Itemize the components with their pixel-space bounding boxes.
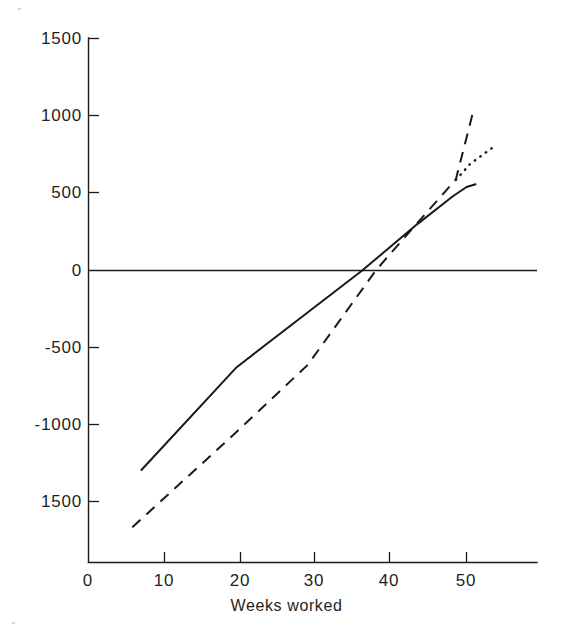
x-tick-label-30: 30 xyxy=(294,572,334,589)
y-tick-label-minus-500: -500 xyxy=(0,339,82,356)
series-dotted-line xyxy=(456,147,494,180)
x-tick-label-50: 50 xyxy=(446,572,486,589)
x-tick-label-0: 0 xyxy=(68,572,108,589)
series-dashed-line xyxy=(132,108,474,527)
y-tick-label-minus-1000: -1000 xyxy=(0,416,82,433)
x-axis-title: Weeks worked xyxy=(0,598,573,614)
y-tick-label-minus-1500: 1500 xyxy=(0,493,82,510)
y-tick-label-1500: 1500 xyxy=(0,30,82,47)
y-tick-label-500: 500 xyxy=(0,184,82,201)
chart-figure: 1500 1000 500 0 -500 -1000 1500 0 10 20 … xyxy=(0,0,573,638)
x-tick-label-10: 10 xyxy=(144,572,184,589)
x-tick-label-40: 40 xyxy=(369,572,409,589)
series-solid-line xyxy=(141,184,475,470)
y-tick-label-1000: 1000 xyxy=(0,107,82,124)
x-tick-marks xyxy=(165,552,467,563)
plot-area xyxy=(0,0,573,638)
y-tick-label-0: 0 xyxy=(0,262,82,279)
x-tick-label-20: 20 xyxy=(220,572,260,589)
